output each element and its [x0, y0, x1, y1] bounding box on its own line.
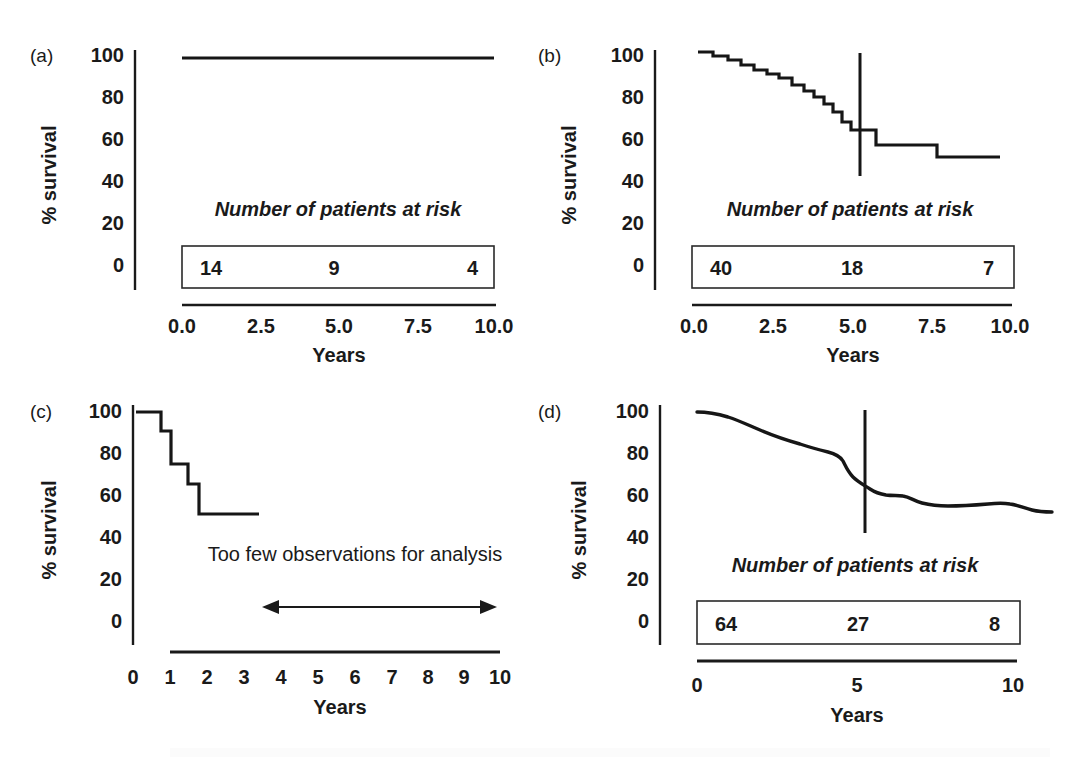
panel-b-xtick-2: 5.0	[839, 315, 867, 337]
panel-a-xtick-2: 5.0	[325, 315, 353, 337]
panel-a-label: (a)	[30, 45, 53, 66]
panel-d-risk-value-1: 27	[847, 613, 869, 635]
panel-b-ytick-80: 80	[622, 86, 644, 108]
figure-canvas: (a) 100 80 60 40 20 0 % survival Number …	[0, 0, 1066, 757]
panel-c-xtick-9: 9	[458, 666, 469, 688]
panel-a-risk-value-2: 4	[467, 257, 479, 279]
panel-c-xtick-8: 8	[422, 666, 433, 688]
panel-b-xtick-4: 10.0	[991, 315, 1030, 337]
panel-a-risk-value-0: 14	[200, 257, 223, 279]
panel-d-ytick-80: 80	[627, 442, 649, 464]
panel-d-xlabel: Years	[830, 704, 883, 726]
panel-c-ytick-100: 100	[89, 400, 122, 422]
panel-d-risk-value-2: 8	[989, 613, 1000, 635]
panel-a-risk-value-1: 9	[328, 257, 339, 279]
panel-c-ytick-0: 0	[111, 610, 122, 632]
panel-b-xtick-3: 7.5	[918, 315, 946, 337]
panel-b-risk-title: Number of patients at risk	[727, 198, 975, 220]
panel-c-note: Too few observations for analysis	[208, 543, 503, 565]
panel-b-xtick-0: 0.0	[680, 315, 708, 337]
panel-b-ytick-100: 100	[611, 44, 644, 66]
caption-strip-background	[170, 748, 1050, 757]
panel-d-risk-value-0: 64	[715, 613, 738, 635]
panel-a-xtick-1: 2.5	[247, 315, 275, 337]
panel-c-xtick-7: 7	[386, 666, 397, 688]
panel-c-xtick-4: 4	[275, 666, 287, 688]
panel-d-ylabel: % survival	[568, 481, 590, 580]
panel-c-ytick-60: 60	[100, 484, 122, 506]
panel-c-label: (c)	[30, 401, 52, 422]
panel-a-xtick-3: 7.5	[404, 315, 432, 337]
panel-c-xtick-1: 1	[164, 666, 175, 688]
panel-d-ytick-100: 100	[616, 400, 649, 422]
panel-b-risk-value-2: 7	[983, 257, 994, 279]
panel-b-risk-value-1: 18	[841, 257, 863, 279]
panel-a-risk-title: Number of patients at risk	[215, 198, 463, 220]
panel-a-ytick-60: 60	[102, 128, 124, 150]
caption-clipped-strip	[170, 748, 1050, 757]
panel-b-label: (b)	[538, 45, 561, 66]
panel-c-xtick-6: 6	[349, 666, 360, 688]
panel-c-xtick-5: 5	[312, 666, 323, 688]
panel-a-ytick-40: 40	[102, 170, 124, 192]
panel-b-ytick-0: 0	[633, 254, 644, 276]
panel-b-ytick-60: 60	[622, 128, 644, 150]
panel-b-risk-value-0: 40	[710, 257, 732, 279]
panel-b-xlabel: Years	[826, 344, 879, 366]
panel-d-ytick-60: 60	[627, 484, 649, 506]
panel-d-ytick-20: 20	[627, 568, 649, 590]
panel-d-risk-title: Number of patients at risk	[732, 554, 980, 576]
panel-a-xlabel: Years	[312, 344, 365, 366]
panel-c-ylabel: % survival	[38, 481, 60, 580]
panel-c-xtick-3: 3	[238, 666, 249, 688]
panel-c-xtick-0: 0	[127, 666, 138, 688]
panel-a-ytick-80: 80	[102, 86, 124, 108]
panel-c-ytick-20: 20	[100, 568, 122, 590]
panel-d-ytick-40: 40	[627, 526, 649, 548]
panel-d-ytick-0: 0	[638, 610, 649, 632]
panel-c-xtick-2: 2	[201, 666, 212, 688]
panel-d-xtick-1: 5	[851, 674, 862, 696]
panel-b-ytick-40: 40	[622, 170, 644, 192]
panel-b-xtick-1: 2.5	[759, 315, 787, 337]
panel-c-xtick-10: 10	[489, 666, 511, 688]
panel-a-ytick-0: 0	[113, 254, 124, 276]
survival-curves-figure: (a) 100 80 60 40 20 0 % survival Number …	[0, 0, 1066, 757]
panel-b-ytick-20: 20	[622, 212, 644, 234]
panel-a-ytick-20: 20	[102, 212, 124, 234]
panel-c-ytick-80: 80	[100, 442, 122, 464]
panel-c-ytick-40: 40	[100, 526, 122, 548]
panel-a-xtick-0: 0.0	[168, 315, 196, 337]
panel-a-xtick-4: 10.0	[475, 315, 514, 337]
panel-a-ylabel: % survival	[38, 126, 60, 225]
panel-d-xtick-2: 10	[1002, 674, 1024, 696]
panel-b-ylabel: % survival	[558, 126, 580, 225]
panel-a-ytick-100: 100	[91, 44, 124, 66]
panel-d-xtick-0: 0	[691, 674, 702, 696]
panel-d-label: (d)	[538, 401, 561, 422]
panel-c-xlabel: Years	[313, 696, 366, 718]
